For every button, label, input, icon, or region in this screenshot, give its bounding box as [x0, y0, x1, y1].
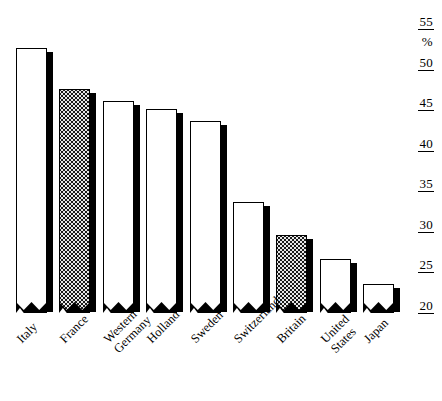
bar-switzerland[interactable]: [233, 202, 264, 312]
y-tick-50: 50: [418, 56, 434, 71]
y-tick-label: 55: [418, 15, 434, 30]
y-tick-label: 40: [418, 137, 434, 152]
y-tick-label: 45: [418, 96, 434, 111]
y-tick-label: 25: [418, 258, 434, 273]
x-axis-labels: ItalyFranceWesternGermanyHollandSwedenSw…: [0, 330, 410, 401]
y-tick-label: 20: [418, 299, 434, 314]
y-tick-55: 55: [418, 15, 434, 30]
bar-shadow: [350, 263, 357, 312]
axis-break-zigzag-icon: [59, 297, 90, 313]
bar-shadow: [306, 239, 313, 312]
y-tick-45: 45: [418, 96, 434, 111]
y-tick-label: 30: [418, 218, 434, 233]
bar-france[interactable]: [59, 89, 90, 312]
y-tick-35: 35: [418, 177, 434, 192]
bar-holland[interactable]: [146, 109, 177, 312]
plot-area: [0, 0, 410, 330]
axis-break-zigzag-icon: [363, 297, 394, 313]
y-axis-unit: %: [421, 35, 434, 49]
axis-break-zigzag-icon: [320, 297, 351, 313]
bar-chart: 5550454035302520% ItalyFranceWesternGerm…: [0, 0, 442, 401]
bar-western-germany[interactable]: [103, 101, 134, 312]
y-tick-label: 35: [418, 177, 434, 192]
bar-body: [16, 48, 47, 312]
bar-shadow: [89, 93, 96, 312]
axis-break-zigzag-icon: [16, 297, 47, 313]
bar-japan[interactable]: [363, 284, 394, 312]
bar-shadow: [133, 105, 140, 312]
bar-italy[interactable]: [16, 48, 47, 312]
bar-shadow: [220, 125, 227, 312]
bar-body: [59, 89, 90, 312]
bar-shadow: [176, 113, 183, 312]
y-axis-unit-label: %: [421, 35, 434, 49]
y-tick-label: 50: [418, 56, 434, 71]
bar-sweden[interactable]: [190, 121, 221, 312]
y-tick-40: 40: [418, 137, 434, 152]
bar-shadow: [46, 52, 53, 312]
y-tick-25: 25: [418, 258, 434, 273]
y-tick-30: 30: [418, 218, 434, 233]
bar-united-states[interactable]: [320, 259, 351, 312]
bar-body: [103, 101, 134, 312]
bar-shadow: [393, 288, 400, 312]
bar-body: [190, 121, 221, 312]
bar-body: [146, 109, 177, 312]
y-axis: 5550454035302520%: [402, 0, 442, 330]
bar-body: [233, 202, 264, 312]
y-tick-20: 20: [418, 299, 434, 314]
